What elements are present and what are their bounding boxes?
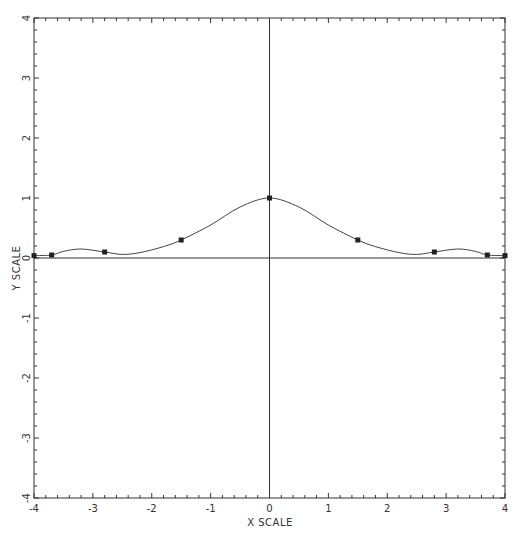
x-tick-labels: -4-3-2-101234 xyxy=(29,503,508,514)
data-point-marker xyxy=(485,253,490,258)
y-tick-label: 2 xyxy=(21,135,32,141)
x-tick-label: 2 xyxy=(384,503,390,514)
data-point-marker xyxy=(355,238,360,243)
y-tick-label: 4 xyxy=(21,15,32,21)
zero-axes xyxy=(34,18,505,498)
x-tick-label: -4 xyxy=(29,503,39,514)
data-point-marker xyxy=(432,250,437,255)
data-point-marker xyxy=(32,253,37,258)
y-axis-label: Y SCALE xyxy=(11,246,22,292)
y-tick-label: -2 xyxy=(21,373,32,383)
data-point-marker xyxy=(49,253,54,258)
data-point-marker xyxy=(102,250,107,255)
y-tick-label: 0 xyxy=(21,255,32,261)
data-point-marker xyxy=(503,253,508,258)
y-tick-label: -3 xyxy=(21,433,32,443)
y-tick-label: -4 xyxy=(21,493,32,503)
y-tick-label: -1 xyxy=(21,313,32,323)
data-point-marker xyxy=(179,238,184,243)
x-tick-label: -1 xyxy=(206,503,216,514)
y-tick-labels: -4-3-2-101234 xyxy=(21,15,32,503)
x-tick-label: 4 xyxy=(502,503,508,514)
y-tick-label: 3 xyxy=(21,75,32,81)
x-tick-label: -3 xyxy=(88,503,98,514)
chart-canvas: -4-3-2-101234 -4-3-2-101234 X SCALE Y SC… xyxy=(0,0,520,534)
y-tick-label: 1 xyxy=(21,195,32,201)
x-tick-label: 3 xyxy=(443,503,449,514)
data-point-marker xyxy=(267,196,272,201)
x-tick-label: -2 xyxy=(147,503,157,514)
x-axis-label: X SCALE xyxy=(247,517,293,528)
x-tick-label: 1 xyxy=(325,503,331,514)
x-tick-label: 0 xyxy=(266,503,272,514)
